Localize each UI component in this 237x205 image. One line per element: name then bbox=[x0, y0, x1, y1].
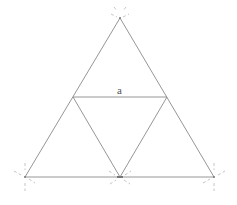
midline-label: a bbox=[117, 84, 122, 96]
bottom-middle-point bbox=[117, 176, 123, 178]
apex-point bbox=[119, 17, 121, 19]
bottom-left-point bbox=[24, 176, 26, 178]
inner-left-segment bbox=[73, 97, 120, 177]
inner-right-segment bbox=[120, 97, 167, 177]
bottom-right-point bbox=[213, 176, 215, 178]
bottom-middle-construction-marks bbox=[109, 171, 131, 184]
apex-construction-marks bbox=[111, 7, 129, 19]
triangle-diagram: a bbox=[0, 0, 237, 205]
